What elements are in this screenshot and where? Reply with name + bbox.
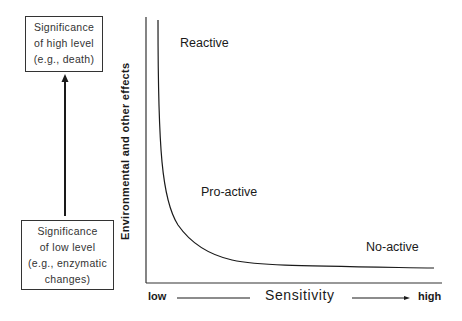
reactive-label: Reactive xyxy=(180,36,229,50)
diagram-graphics xyxy=(0,0,462,321)
x-axis-low-label: low xyxy=(148,290,166,302)
sensitivity-curve xyxy=(158,20,434,268)
x-axis-title: Sensitivity xyxy=(265,287,335,303)
proactive-label: Pro-active xyxy=(201,185,257,199)
upward-arrow-head xyxy=(62,74,69,82)
y-axis-label: Environmental and other effects xyxy=(119,63,131,240)
noactive-label: No-active xyxy=(366,240,419,254)
x-axis-arrow-head xyxy=(404,296,410,300)
x-axis-high-label: high xyxy=(418,290,441,302)
